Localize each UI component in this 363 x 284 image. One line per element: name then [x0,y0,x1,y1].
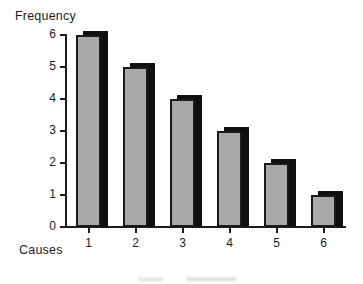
x-axis-tick-label: 6 [314,236,334,251]
y-axis-tick [60,226,66,228]
y-axis-tick-label: 4 [34,91,56,106]
bar-cause-4 [217,131,242,227]
bar-cause-3 [170,99,195,227]
bar-cause-1 [76,35,101,227]
x-axis-tick [88,228,90,233]
cropped-caption-artifact [138,278,163,281]
y-axis-tick-label: 1 [34,187,56,202]
y-axis-tick [60,66,66,68]
x-axis-title: Causes [19,243,63,257]
x-axis-tick-label: 2 [126,236,146,251]
x-axis-tick-label: 1 [79,236,99,251]
y-axis-tick [60,98,66,100]
x-axis-tick-label: 5 [267,236,287,251]
y-axis-tick-label: 0 [34,219,56,234]
x-axis-tick [229,228,231,233]
y-axis-tick-label: 2 [34,155,56,170]
x-axis-tick [276,228,278,233]
bar-cause-5 [264,163,289,227]
x-axis-tick-label: 3 [173,236,193,251]
x-axis-tick [135,228,137,233]
bar-cause-6 [311,195,336,227]
y-axis-tick [60,162,66,164]
bar-chart-figure: Frequency 0123456123456 Causes [0,0,363,284]
x-axis-tick [323,228,325,233]
y-axis-tick-label: 5 [34,59,56,74]
y-axis-tick [60,130,66,132]
y-axis-title: Frequency [15,9,76,23]
y-axis-tick-label: 6 [34,27,56,42]
y-axis-tick [60,34,66,36]
y-axis-tick-label: 3 [34,123,56,138]
bar-cause-2 [123,67,148,227]
cropped-caption-artifact [186,277,236,281]
y-axis-tick [60,194,66,196]
x-axis-tick-label: 4 [220,236,240,251]
x-axis-tick [182,228,184,233]
